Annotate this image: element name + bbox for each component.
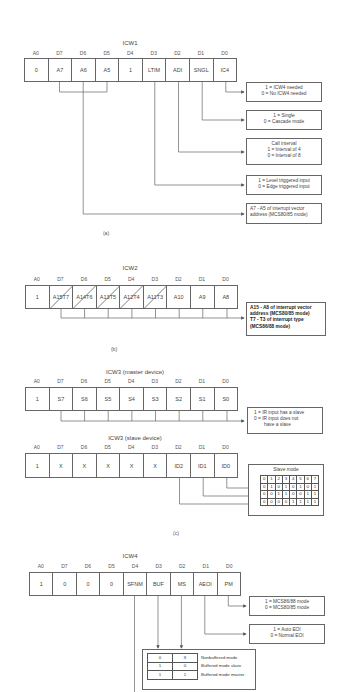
slave-mode-box: Slave mode 01234567 01010101 00110011 00…: [248, 464, 324, 516]
register-cell: 1: [119, 59, 143, 81]
icw2-desc: A15 - A8 of interrupt vector address (MC…: [246, 302, 326, 336]
desc-line: 0 = Edge triggered input: [250, 184, 318, 190]
bit-label: D4: [123, 563, 147, 569]
bit-label: D2: [167, 276, 191, 282]
desc-line: 0 = Cascade mode: [250, 119, 318, 125]
table-row: 01234567: [261, 476, 319, 484]
icw3-slave-bit-labels: A0 D7 D6 D5 D4 D3 D2 D1 D0: [25, 444, 238, 450]
icw4-bit-labels: A0 D7 D6 D5 D4 D3 D2 D1 D0: [29, 563, 241, 569]
bit-label: D7: [48, 50, 72, 56]
buffer-mode-table: 0 X Nonbuffered mode 1 0 Buffered mode s…: [147, 653, 247, 680]
icw3-master-desc: 1 = IR input has a slave 0 = IR input do…: [247, 407, 323, 434]
bit-label: D4: [119, 444, 143, 450]
bit-label: D6: [71, 50, 95, 56]
bit-label: D5: [96, 444, 120, 450]
register-cell: AEOI: [194, 573, 217, 595]
register-cell: S5: [97, 388, 121, 410]
register-cell-split: A14 T6: [73, 286, 97, 308]
desc-line: 0 = Normal EOI: [253, 633, 321, 639]
icw2-register: 1 A15 T7 A14 T6 A13 T5 A12 T4 A11 T3 A10…: [25, 285, 238, 309]
icw4-desc-pm: 1 = MCS86/88 mode 0 = MCS80/85 mode: [249, 596, 325, 616]
register-cell-split: A12 T4: [120, 286, 144, 308]
bit-label: D5: [96, 378, 120, 384]
register-cell: 1: [26, 286, 50, 308]
register-cell: S3: [144, 388, 168, 410]
icw4-register: 1 0 0 0 SFNM BUF MS AEOI PM: [29, 572, 241, 596]
register-cell: ID2: [167, 454, 191, 477]
icw1-desc-adi: Call interval 1 = Interval of 4 0 = Inte…: [246, 138, 322, 165]
register-cell-split: A13 T5: [97, 286, 121, 308]
diagonal-divider: [97, 286, 120, 309]
desc-line: have a slave: [254, 422, 319, 428]
register-cell: ID0: [215, 454, 238, 477]
register-cell: A9: [191, 286, 215, 308]
bit-label: D4: [119, 276, 143, 282]
bit-label: D3: [147, 563, 171, 569]
icw4-desc-aeoi: 1 = Auto EOI 0 = Normal EOI: [249, 624, 325, 644]
icw1-title: ICW1: [100, 40, 160, 46]
bit-label: D3: [143, 378, 167, 384]
register-cell: X: [97, 454, 121, 477]
register-cell: LTIM: [143, 59, 167, 81]
icw1-desc-sngl: 1 = Single 0 = Cascade mode: [246, 110, 322, 130]
bit-label: D5: [96, 276, 120, 282]
bit-label: D0: [214, 276, 238, 282]
icw3-slave-title: ICW3 (slave device): [95, 435, 175, 441]
bit-label: A0: [25, 378, 49, 384]
bit-label: D3: [143, 444, 167, 450]
register-cell: 1: [26, 454, 50, 477]
register-cell: A8: [215, 286, 238, 308]
diagonal-divider: [50, 286, 73, 309]
bit-label: D2: [167, 378, 191, 384]
bit-label: D2: [166, 50, 190, 56]
bit-label: A0: [24, 50, 48, 56]
icw4-title: ICW4: [100, 553, 160, 559]
table-row: 00001111: [261, 498, 319, 506]
slave-mode-table: 01234567 01010101 00110011 00001111: [260, 475, 319, 506]
bit-label: D5: [100, 563, 124, 569]
diagonal-divider: [144, 286, 167, 309]
register-cell: ID1: [191, 454, 215, 477]
register-cell: S6: [73, 388, 97, 410]
bit-label: D6: [72, 444, 96, 450]
table-row: 1 1 Buffered mode master: [148, 671, 247, 680]
bit-label: D7: [49, 378, 73, 384]
register-cell: S0: [215, 388, 238, 410]
icw1-register: 0 A7 A6 A5 1 LTIM ADI SNGL IC4: [24, 58, 237, 82]
register-cell: 0: [100, 573, 123, 595]
bit-label: D7: [49, 276, 73, 282]
register-cell: MS: [171, 573, 194, 595]
bit-label: D4: [119, 378, 143, 384]
table-row: 01010101: [261, 483, 319, 491]
register-cell: A7: [49, 59, 73, 81]
bit-label: D7: [53, 563, 77, 569]
register-cell: 0: [53, 573, 76, 595]
table-row: 00110011: [261, 491, 319, 499]
register-cell: S4: [120, 388, 144, 410]
bit-label: D1: [194, 563, 218, 569]
icw1-bit-labels: A0 D7 D6 D5 D4 D3 D2 D1 D0: [24, 50, 237, 56]
caption-c: (c): [166, 530, 186, 536]
icw3-master-bit-labels: A0 D7 D6 D5 D4 D3 D2 D1 D0: [25, 378, 238, 384]
register-cell: 0: [77, 573, 100, 595]
bit-label: D2: [167, 444, 191, 450]
caption-b: (b): [104, 346, 124, 352]
bit-label: D1: [190, 444, 214, 450]
register-cell: A10: [167, 286, 191, 308]
table-row: 0 X Nonbuffered mode: [148, 654, 247, 663]
bit-label: D7: [49, 444, 73, 450]
register-cell: SFNM: [124, 573, 147, 595]
register-cell: A6: [72, 59, 96, 81]
buffer-mode-box: 0 X Nonbuffered mode 1 0 Buffered mode s…: [142, 649, 256, 690]
icw2-bit-labels: A0 D7 D6 D5 D4 D3 D2 D1 D0: [25, 276, 238, 282]
bit-label: D6: [72, 378, 96, 384]
slave-mode-title: Slave mode: [253, 467, 319, 473]
register-cell: 1: [30, 573, 53, 595]
bit-label: D0: [218, 563, 242, 569]
bit-label: D1: [189, 50, 213, 56]
register-cell: X: [50, 454, 74, 477]
bit-label: D0: [213, 50, 237, 56]
register-cell: S1: [191, 388, 215, 410]
desc-line: 0 = No ICW4 needed: [250, 91, 318, 97]
register-cell: BUF: [147, 573, 170, 595]
